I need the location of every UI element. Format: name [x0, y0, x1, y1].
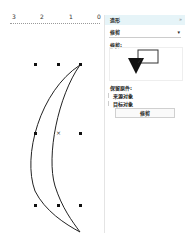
selection-handle-right[interactable]	[79, 132, 82, 135]
leave-original-label: 保留原件:	[110, 85, 132, 91]
source-object-checkbox[interactable]: 来源对象	[113, 93, 133, 99]
docker-header: 造形 »	[105, 15, 185, 25]
source-object-label: 来源对象	[113, 93, 133, 99]
dropdown-selected: 修剪	[110, 29, 120, 35]
collapse-icon[interactable]: »	[179, 16, 182, 23]
chevron-down-icon[interactable]: ▾	[177, 28, 180, 36]
horizontal-ruler[interactable]: 3 2 1 0	[0, 14, 104, 26]
selection-handle-bottom-left[interactable]	[34, 204, 37, 207]
selection-handle-bottom-right[interactable]	[79, 204, 82, 207]
trim-preview	[109, 47, 183, 81]
shaping-mode-dropdown[interactable]: 修剪 ▾	[109, 28, 181, 38]
drawing-canvas[interactable]: ×	[0, 26, 104, 233]
selection-center-icon[interactable]: ×	[56, 130, 61, 136]
trim-button[interactable]: 修剪	[115, 108, 175, 118]
selection-handle-left[interactable]	[34, 132, 37, 135]
selection-handle-top[interactable]	[57, 63, 60, 66]
shaping-docker: 造形 » 修剪 ▾ 修剪: 保留原件: 来源对象 目标对象 修剪	[104, 15, 185, 233]
checkbox[interactable]	[108, 93, 113, 98]
selection-handle-bottom[interactable]	[57, 204, 60, 207]
ruler-baseline	[10, 23, 100, 24]
trim-preview-icon	[110, 48, 182, 80]
checkbox[interactable]	[108, 101, 113, 106]
ruler-label: 3	[12, 14, 16, 20]
ruler-label: 1	[69, 14, 73, 20]
selection-handle-top-left[interactable]	[34, 63, 37, 66]
target-object-checkbox[interactable]: 目标对象	[113, 101, 133, 107]
crescent-shape[interactable]	[0, 26, 104, 233]
docker-title: 造形	[110, 17, 120, 23]
ruler-label: 2	[40, 14, 44, 20]
target-object-label: 目标对象	[113, 101, 133, 107]
selection-handle-top-right[interactable]	[79, 63, 82, 66]
ruler-label: 0	[97, 14, 101, 20]
